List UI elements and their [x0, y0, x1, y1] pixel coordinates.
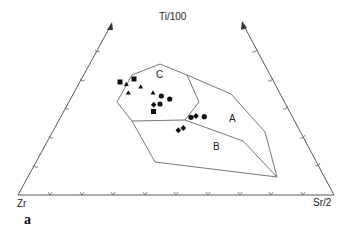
data-point-diamond: [193, 113, 199, 119]
data-point-square: [132, 77, 137, 82]
data-point-circle: [188, 115, 193, 120]
ternary-diagram: [0, 0, 353, 235]
triangle-frame: [18, 24, 334, 195]
data-point-square: [118, 80, 123, 85]
left-arrowhead-icon: [107, 22, 113, 30]
left-axis: [18, 25, 111, 195]
data-point-diamond: [151, 102, 157, 108]
field-a-label: A: [229, 114, 236, 124]
series-circles: [157, 93, 207, 120]
field-b-boundary: [132, 121, 277, 177]
data-point-triangle: [126, 90, 131, 94]
right-arrowhead-icon: [241, 21, 247, 30]
field-boundaries: [117, 64, 277, 177]
series-triangles: [124, 82, 156, 95]
series-squares: [118, 77, 157, 115]
left-apex-label: Zr: [17, 199, 26, 209]
right-apex-label: Sr/2: [313, 198, 331, 208]
data-point-circle: [167, 96, 172, 101]
data-point-triangle: [138, 84, 143, 88]
top-apex-label: Ti/100: [159, 12, 186, 22]
data-point-circle: [202, 114, 207, 119]
data-point-circle: [159, 93, 164, 98]
data-point-triangle: [151, 90, 156, 94]
field-b-label: B: [213, 142, 220, 152]
data-point-diamond: [181, 125, 187, 131]
field-a-boundary: [185, 75, 277, 177]
panel-label: a: [24, 213, 31, 227]
field-c-label: C: [156, 70, 163, 80]
data-point-square: [151, 109, 156, 114]
data-point-diamond: [176, 127, 182, 133]
data-point-circle: [157, 101, 162, 106]
